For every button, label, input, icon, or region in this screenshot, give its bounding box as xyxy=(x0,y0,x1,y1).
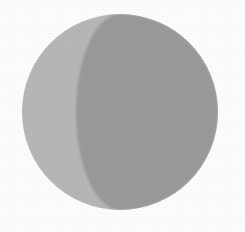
moon-phase-figure xyxy=(0,0,245,232)
illustration-canvas: Gibbous Moon Phase Grey circle with a da… xyxy=(0,0,245,232)
